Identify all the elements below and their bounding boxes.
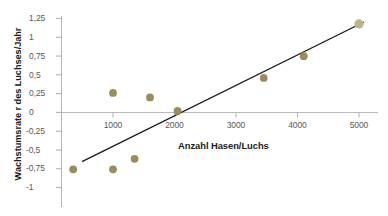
data-point <box>300 52 308 60</box>
data-point <box>69 165 77 173</box>
y-tick-label: 0 <box>29 107 34 117</box>
data-point <box>131 155 139 163</box>
y-tick-label: -0,5 <box>26 145 40 155</box>
x-tick-label: 4000 <box>283 120 313 130</box>
y-tick-label: 1,25 <box>29 13 45 23</box>
x-tick-label: 1000 <box>98 120 128 130</box>
data-point <box>354 19 363 28</box>
y-tick-label: 1 <box>29 32 34 42</box>
y-axis-label-wrapper: Wachstumsrate r des Luchses/Jahr <box>0 0 18 216</box>
x-tick-label: 3000 <box>221 120 251 130</box>
data-point <box>260 74 268 82</box>
data-point <box>109 165 117 173</box>
x-tick-label: 5000 <box>344 120 374 130</box>
scatter-plot-svg <box>0 0 388 216</box>
y-tick-label: 0,25 <box>29 88 45 98</box>
chart-container: 1,25 1 0,75 0,5 0,25 0 -0,25 -0,5 -0,75 … <box>0 0 388 216</box>
x-tick-label: 2000 <box>160 120 190 130</box>
y-tick-label: 0,5 <box>29 70 41 80</box>
y-tick-label: 0,75 <box>29 51 45 61</box>
data-point <box>174 107 182 115</box>
y-tick-label: -1 <box>26 182 33 192</box>
y-tick-label: -0,75 <box>26 163 45 173</box>
y-axis-label: Wachstumsrate r des Luchses/Jahr <box>13 6 23 202</box>
y-tick-label: -0,25 <box>26 126 45 136</box>
x-tick-marks <box>113 113 359 118</box>
data-point <box>109 89 117 97</box>
axis-group <box>62 16 379 207</box>
y-tick-marks <box>56 19 62 188</box>
x-axis-label: Anzahl Hasen/Luchs <box>178 140 269 151</box>
data-point <box>146 94 154 102</box>
